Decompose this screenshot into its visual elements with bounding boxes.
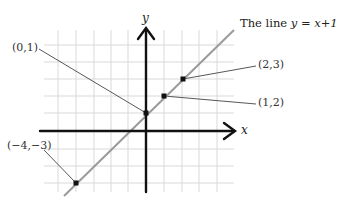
leader-lines — [39, 49, 256, 183]
x-axis-label: x — [241, 124, 248, 136]
point-2-3 — [181, 77, 186, 82]
axes — [40, 28, 235, 192]
point-neg4-neg3 — [74, 181, 79, 186]
y-axis-label: y — [142, 12, 149, 24]
point-0-1 — [144, 111, 149, 116]
point-label-2-3: (2,3) — [258, 59, 284, 70]
line-title-prefix: The line — [240, 16, 291, 30]
point-label-neg4-neg3: (−4,−3) — [7, 140, 52, 151]
line-title: The line y = x+1 — [240, 18, 338, 30]
point-label-1-2: (1,2) — [258, 97, 284, 108]
line-title-equation: y = x+1 — [291, 16, 338, 30]
grid — [44, 30, 234, 192]
point-1-2 — [162, 94, 167, 99]
point-label-0-1: (0,1) — [12, 42, 38, 53]
